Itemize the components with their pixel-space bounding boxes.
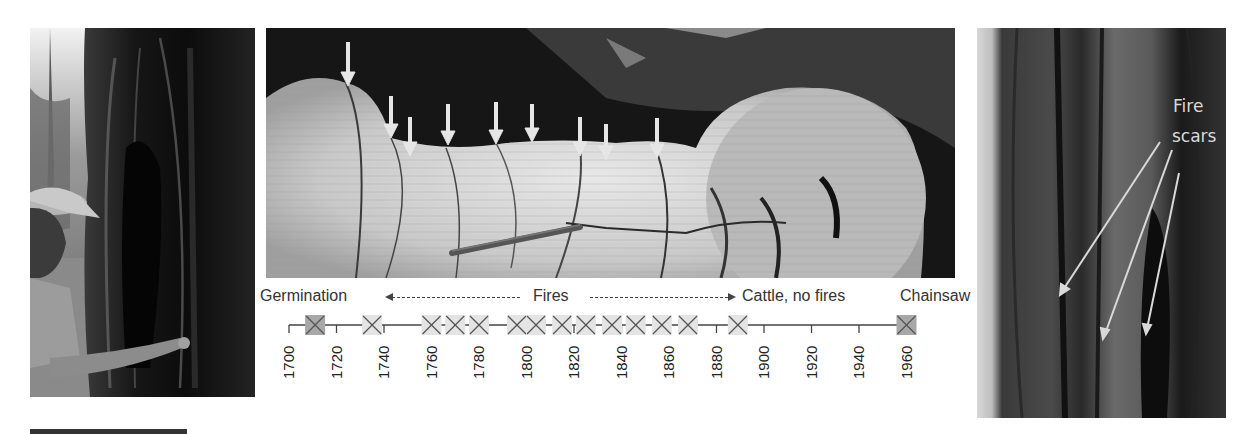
fire-scar-marker (445, 315, 465, 335)
dashed-line-right (590, 297, 728, 298)
germination-marker (305, 315, 325, 335)
year-label: 1860 (661, 346, 676, 379)
label-cattle-no-fires: Cattle, no fires (742, 287, 845, 305)
year-label: 1720 (329, 346, 344, 379)
fire-scars-label-line2: scars (1172, 122, 1216, 151)
year-label: 1920 (804, 346, 819, 379)
year-label: 1740 (376, 346, 391, 379)
year-label: 1940 (851, 346, 866, 379)
year-label: 1760 (424, 346, 439, 379)
fire-scar-marker (576, 315, 596, 335)
year-label: 1900 (756, 346, 771, 379)
year-label: 1800 (519, 346, 534, 379)
year-label: 1700 (281, 346, 296, 379)
fire-scar-marker (602, 315, 622, 335)
label-fires: Fires (533, 287, 569, 305)
fire-scar-marker (728, 315, 748, 335)
year-label: 1960 (899, 346, 914, 379)
fire-scar-marker (469, 315, 489, 335)
photo-stump-cross-section (266, 28, 955, 278)
label-germination: Germination (260, 287, 347, 305)
scale-bar (30, 429, 187, 434)
fire-scar-marker (507, 315, 527, 335)
arrow-right-icon (728, 293, 736, 301)
fire-scar-marker (652, 315, 672, 335)
label-chainsaw: Chainsaw (900, 287, 970, 305)
fire-scar-marker (526, 315, 546, 335)
fire-scar-marker (678, 315, 698, 335)
fire-scar-marker (626, 315, 646, 335)
dashed-line-left (392, 297, 520, 298)
fire-scar-marker (552, 315, 572, 335)
year-label: 1840 (614, 346, 629, 379)
year-label: 1880 (709, 346, 724, 379)
fire-scar-marker (422, 315, 442, 335)
fire-scar-marker (362, 315, 382, 335)
year-label: 1780 (471, 346, 486, 379)
year-label: 1820 (566, 346, 581, 379)
photo-person-at-scarred-tree (30, 28, 255, 397)
photo-trunk-fire-scars: Fire scars (977, 28, 1226, 418)
chainsaw-marker (897, 315, 917, 335)
fire-scars-label-line1: Fire (1173, 92, 1203, 121)
